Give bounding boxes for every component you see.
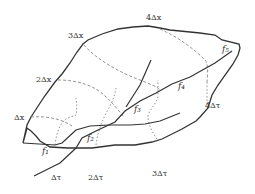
- isoline-dx2: [58, 80, 124, 117]
- tau-label-dt4: 4Δτ: [205, 101, 221, 110]
- fault-grid-diagram: f₁ f₂ f₃ f₄ f₅ Δx 2Δx 3Δx 4Δx Δτ 2Δτ 3Δτ…: [0, 0, 255, 194]
- x-label-dx3: 3Δx: [68, 31, 84, 40]
- fault-label-f2: f₂: [86, 133, 94, 143]
- tau-label-dt3: 3Δτ: [152, 169, 168, 178]
- fault-label-f5: f₅: [221, 44, 229, 54]
- x-label-dx1: Δx: [14, 113, 25, 122]
- isoline-dt3: [148, 80, 158, 139]
- isoline-dx1: [31, 117, 72, 126]
- fault-label-f4: f₄: [177, 81, 185, 91]
- fault-label-f1: f₁: [41, 146, 49, 156]
- x-label-dx2: 2Δx: [36, 75, 52, 84]
- isoline-dx3: [84, 45, 160, 90]
- tau-label-dt2: 2Δτ: [88, 173, 104, 182]
- isoline-dt1: [55, 98, 77, 145]
- fault-line-upper: [126, 60, 151, 107]
- tau-label-dt1: Δτ: [51, 173, 62, 182]
- fault-label-f3: f₃: [133, 104, 141, 114]
- isoline-dx4: [160, 29, 208, 82]
- x-label-dx4: 4Δx: [146, 13, 162, 22]
